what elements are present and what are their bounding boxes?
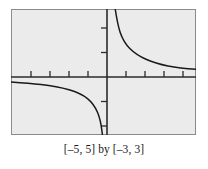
range-caption: [–5, 5] by [–3, 3]	[0, 143, 208, 155]
plot-area	[11, 9, 196, 135]
graph-figure: [–5, 5] by [–3, 3]	[0, 0, 208, 169]
plot-svg	[11, 9, 196, 135]
